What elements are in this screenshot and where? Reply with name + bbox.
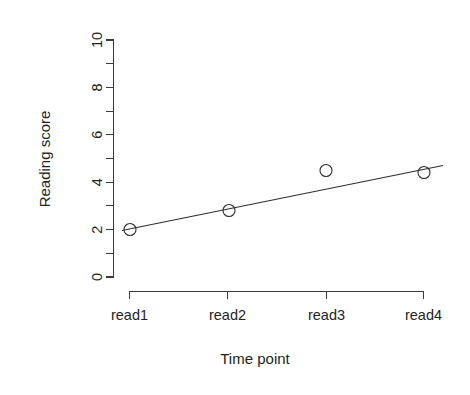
regression-line (122, 166, 443, 231)
y-axis-title: Reading score (36, 111, 53, 208)
y-axis: 0 2 4 6 8 10 Reading score (36, 32, 114, 281)
x-axis-title: Time point (220, 350, 290, 367)
data-point-read4 (418, 167, 430, 179)
x-axis: read1 read2 read3 read4 Time point (111, 292, 442, 368)
y-tick-label-6: 6 (89, 131, 105, 139)
y-tick-label-10: 10 (89, 32, 105, 48)
regression-line-group (122, 166, 443, 231)
x-tick-label-read3: read3 (308, 307, 345, 323)
chart-plot-area: 0 2 4 6 8 10 Reading score read1 read2 r… (0, 0, 470, 395)
y-tick-label-8: 8 (89, 83, 105, 91)
y-tick-label-2: 2 (89, 226, 105, 234)
x-tick-label-read4: read4 (405, 307, 442, 323)
data-point-read3 (320, 165, 332, 177)
x-tick-label-read2: read2 (209, 307, 246, 323)
data-points-group (124, 165, 430, 236)
scatter-plot-svg: 0 2 4 6 8 10 Reading score read1 read2 r… (0, 0, 470, 395)
data-point-read2 (223, 205, 235, 217)
x-tick-label-read1: read1 (111, 307, 148, 323)
y-tick-label-4: 4 (89, 178, 105, 186)
y-tick-label-0: 0 (89, 273, 105, 281)
